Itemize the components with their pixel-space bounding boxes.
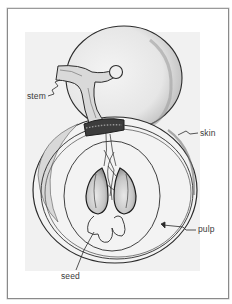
label-seed: seed bbox=[61, 272, 80, 281]
skin-leader bbox=[178, 131, 198, 135]
stem-knob bbox=[110, 66, 123, 79]
label-stem: stem bbox=[27, 92, 46, 101]
label-pulp: pulp bbox=[198, 225, 214, 234]
stem-leader bbox=[48, 80, 60, 96]
label-skin: skin bbox=[200, 129, 216, 138]
fruit-drawing bbox=[0, 0, 232, 304]
